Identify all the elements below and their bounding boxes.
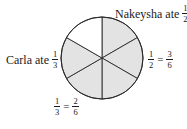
right-equation: 1 2 = 3 6 (147, 50, 174, 69)
half-fraction: 1 2 (148, 50, 154, 69)
equals-sign: = (157, 54, 163, 65)
third-fraction: 1 3 (54, 97, 60, 116)
nakeysha-label: Nakeysha ate 1 2 (115, 4, 187, 23)
two-sixths-fraction: 2 6 (72, 97, 78, 116)
carla-label: Carla ate 1 3 (6, 50, 59, 69)
bottom-equation: 1 3 = 2 6 (53, 97, 80, 116)
carla-text: Carla ate (6, 54, 49, 66)
carla-fraction: 1 3 (52, 50, 58, 69)
equals-sign: = (63, 101, 69, 112)
nakeysha-text: Nakeysha ate (115, 8, 179, 20)
nakeysha-fraction: 1 2 (182, 4, 187, 23)
three-sixths-fraction: 3 6 (166, 50, 172, 69)
